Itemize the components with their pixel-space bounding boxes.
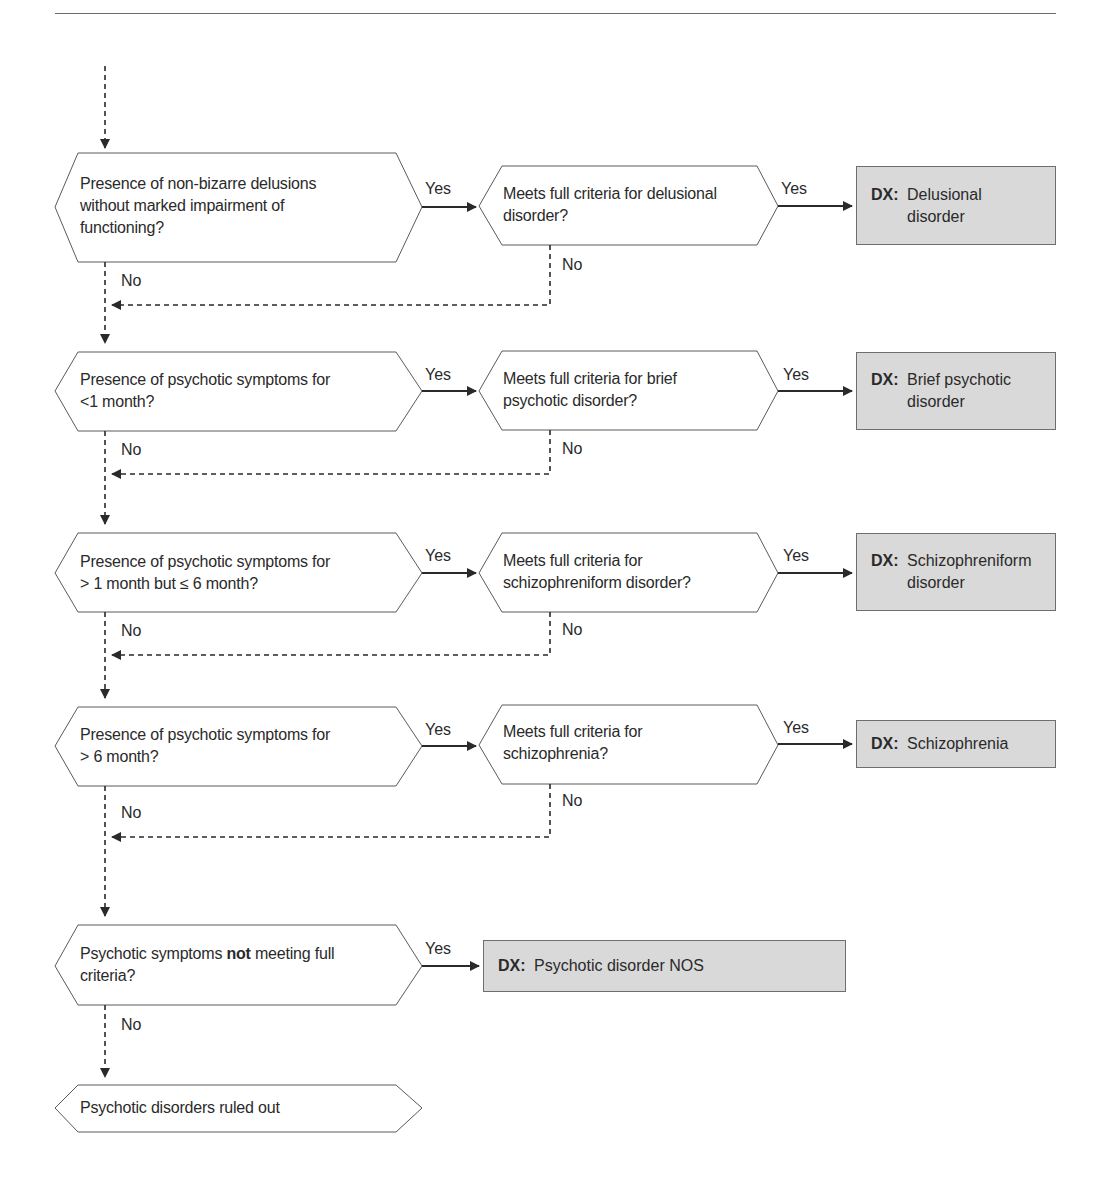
- no-label-c4: No: [562, 792, 582, 810]
- yes-label-c1: Yes: [781, 180, 807, 198]
- diagnosis-value: Delusional disorder: [907, 184, 982, 228]
- question-node-1: Presence of non-bizarre delusions withou…: [80, 173, 316, 239]
- question-1-line-2: without marked impairment of: [80, 195, 316, 217]
- dx-prefix: DX:: [871, 550, 907, 594]
- terminal-node-text: Psychotic disorders ruled out: [80, 1097, 280, 1119]
- question-nos-line-1: Psychotic symptoms not meeting full: [80, 943, 334, 965]
- criteria-4-line-2: schizophrenia?: [503, 743, 642, 765]
- diagnosis-box-schizophrenia: DX:Schizophrenia: [856, 720, 1056, 768]
- question-nos-text-post: meeting full: [251, 945, 335, 962]
- criteria-node-4: Meets full criteria for schizophrenia?: [503, 721, 642, 765]
- yes-label-q2: Yes: [425, 366, 451, 384]
- criteria-node-3: Meets full criteria for schizophreniform…: [503, 550, 691, 594]
- yes-label-q1: Yes: [425, 180, 451, 198]
- question-4-line-2: > 6 month?: [80, 746, 330, 768]
- yes-label-c4: Yes: [783, 719, 809, 737]
- question-node-3: Presence of psychotic symptoms for > 1 m…: [80, 551, 330, 595]
- question-node-nos: Psychotic symptoms not meeting full crit…: [80, 943, 334, 987]
- question-3-line-2: > 1 month but ≤ 6 month?: [80, 573, 330, 595]
- criteria-3-line-2: schizophreniform disorder?: [503, 572, 691, 594]
- diagnosis-box-brief-psychotic: DX:Brief psychotic disorder: [856, 352, 1056, 430]
- question-4-line-1: Presence of psychotic symptoms for: [80, 724, 330, 746]
- criteria-node-2: Meets full criteria for brief psychotic …: [503, 368, 677, 412]
- dx-prefix: DX:: [871, 184, 907, 228]
- criteria-2-line-2: psychotic disorder?: [503, 390, 677, 412]
- question-2-line-2: <1 month?: [80, 391, 330, 413]
- criteria-1-line-1: Meets full criteria for delusional: [503, 183, 717, 205]
- yes-label-c2: Yes: [783, 366, 809, 384]
- question-nos-text-pre: Psychotic symptoms: [80, 945, 226, 962]
- no-label-nos: No: [121, 1016, 141, 1034]
- criteria-2-line-1: Meets full criteria for brief: [503, 368, 677, 390]
- yes-label-c3: Yes: [783, 547, 809, 565]
- no-label-c2: No: [562, 440, 582, 458]
- diagnosis-value: Psychotic disorder NOS: [534, 955, 704, 977]
- no-label-q3: No: [121, 622, 141, 640]
- question-2-line-1: Presence of psychotic symptoms for: [80, 369, 330, 391]
- diagnosis-value: Schizophrenia: [907, 733, 1008, 755]
- criteria-4-line-1: Meets full criteria for: [503, 721, 642, 743]
- question-1-line-3: functioning?: [80, 217, 316, 239]
- criteria-3-line-1: Meets full criteria for: [503, 550, 691, 572]
- no-label-q4: No: [121, 804, 141, 822]
- criteria-1-line-2: disorder?: [503, 205, 717, 227]
- question-nos-line-2: criteria?: [80, 965, 334, 987]
- yes-label-q3: Yes: [425, 547, 451, 565]
- yes-label-nos: Yes: [425, 940, 451, 958]
- no-label-c3: No: [562, 621, 582, 639]
- no-label-c1: No: [562, 256, 582, 274]
- diagnosis-value: Brief psychotic disorder: [907, 369, 1011, 413]
- dx-prefix: DX:: [871, 369, 907, 413]
- diagnosis-box-nos: DX:Psychotic disorder NOS: [483, 940, 846, 992]
- question-3-line-1: Presence of psychotic symptoms for: [80, 551, 330, 573]
- question-node-4: Presence of psychotic symptoms for > 6 m…: [80, 724, 330, 768]
- question-node-2: Presence of psychotic symptoms for <1 mo…: [80, 369, 330, 413]
- dx-prefix: DX:: [498, 955, 534, 977]
- yes-label-q4: Yes: [425, 721, 451, 739]
- diagnosis-box-delusional: DX:Delusional disorder: [856, 166, 1056, 245]
- dx-prefix: DX:: [871, 733, 907, 755]
- no-label-q1: No: [121, 272, 141, 290]
- diagnosis-box-schizophreniform: DX:Schizophreniform disorder: [856, 533, 1056, 611]
- question-nos-emphasis: not: [226, 945, 250, 962]
- no-label-q2: No: [121, 441, 141, 459]
- criteria-node-1: Meets full criteria for delusional disor…: [503, 183, 717, 227]
- diagnosis-value: Schizophreniform disorder: [907, 550, 1032, 594]
- question-1-line-1: Presence of non-bizarre delusions: [80, 173, 316, 195]
